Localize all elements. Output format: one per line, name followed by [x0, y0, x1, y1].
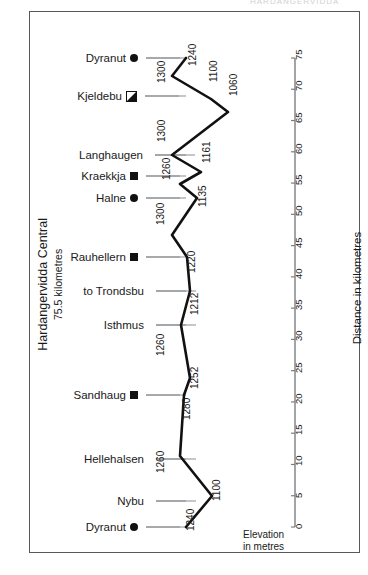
axis-tick-label: 25	[293, 362, 304, 373]
elevation-value-label: 1100	[211, 479, 222, 501]
place-name: Halne	[96, 192, 126, 204]
elevation-value-label: 1260	[155, 334, 166, 356]
elevation-value-label: 1220	[186, 251, 197, 273]
axis-tick-label: 55	[293, 174, 304, 185]
axis-tick-label: 45	[293, 237, 304, 248]
elevation-value-label: 1280	[181, 398, 192, 420]
elevation-value-label: 1260	[155, 451, 166, 473]
circle-marker-icon	[130, 194, 138, 202]
place-label: Isthmus	[40, 318, 148, 332]
elevation-value-label: 1300	[155, 203, 166, 225]
axis-tick-label: 40	[293, 268, 304, 279]
elevation-value-label: 1300	[156, 61, 167, 83]
axis-tick-label: 20	[293, 393, 304, 404]
place-name: Isthmus	[104, 319, 144, 331]
place-label: Halne	[40, 191, 138, 205]
profile-line	[172, 58, 228, 527]
axis-tick-label: 0	[293, 524, 304, 529]
elevation-value-label: 1060	[228, 74, 239, 96]
elevation-value-label: 1100	[208, 60, 219, 82]
axis-tick-label: 65	[293, 112, 304, 123]
elevation-value-label: 1161	[201, 141, 212, 163]
place-name: Hellehalsen	[84, 453, 144, 465]
place-name: Kraekkja	[81, 170, 126, 182]
axis-tick-label: 35	[293, 300, 304, 311]
place-label: Langhaugen	[40, 148, 147, 162]
axis-tick-label: 15	[293, 425, 304, 436]
place-name: Rauhellern	[70, 251, 126, 263]
elevation-value-label: 1240	[187, 44, 198, 66]
place-label: Rauhellern	[40, 250, 138, 264]
place-name: Dyranut	[86, 521, 126, 533]
place-name: Kjeldebu	[77, 90, 122, 102]
place-label: Kjeldebu	[40, 89, 137, 103]
place-name: Dyranut	[86, 52, 126, 64]
axis-tick-label: 30	[293, 331, 304, 342]
place-label: Hellehalsen	[40, 452, 148, 466]
place-name: Sandhaug	[74, 389, 126, 401]
place-label: Nybu	[40, 494, 148, 508]
square-marker-icon	[130, 253, 138, 261]
elevation-value-label: 1240	[185, 509, 196, 531]
elevation-value-label: 1260	[161, 158, 172, 180]
square-marker-icon	[130, 172, 138, 180]
circle-marker-icon	[130, 523, 138, 531]
circle-marker-icon	[130, 54, 138, 62]
place-label: Dyranut	[40, 51, 138, 65]
half-marker-icon	[126, 91, 137, 102]
axis-tick-label: 75	[293, 49, 304, 60]
axis-tick-label: 50	[293, 206, 304, 217]
place-name: to Trondsbu	[83, 285, 144, 297]
elevation-value-label: 1300	[156, 120, 167, 142]
place-label: Dyranut	[40, 520, 138, 534]
axis-tick-label: 70	[293, 81, 304, 92]
place-label: Kraekkja	[40, 169, 138, 183]
axis-tick-label: 60	[293, 143, 304, 154]
axis-tick-label: 5	[293, 492, 304, 497]
place-label: Sandhaug	[40, 388, 138, 402]
elevation-value-label: 1252	[189, 367, 200, 389]
square-marker-icon	[130, 391, 138, 399]
elevation-value-label: 1135	[197, 185, 208, 207]
axis-tick-label: 10	[293, 456, 304, 467]
place-name: Langhaugen	[79, 149, 143, 161]
elevation-value-label: 1212	[189, 293, 200, 315]
place-label: to Trondsbu	[40, 284, 148, 298]
place-name: Nybu	[117, 495, 144, 507]
